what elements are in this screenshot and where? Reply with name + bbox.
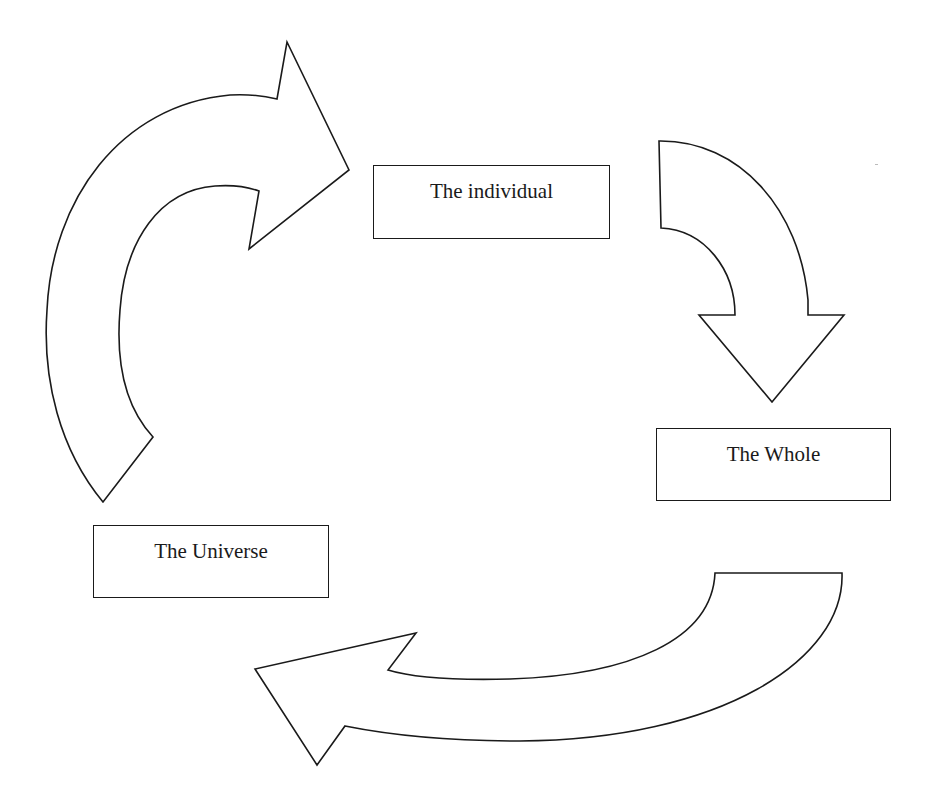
node-whole: The Whole bbox=[656, 428, 891, 501]
node-individual-label: The individual bbox=[374, 166, 609, 204]
arrow-universe-to-individual-icon bbox=[46, 42, 349, 502]
arrow-whole-to-universe-icon bbox=[255, 573, 842, 765]
cycle-diagram: The individual The Whole The Universe bbox=[0, 0, 931, 806]
arrows-layer bbox=[0, 0, 931, 806]
node-universe-label: The Universe bbox=[94, 526, 328, 564]
arrow-individual-to-whole-icon bbox=[659, 141, 844, 402]
scan-artifact bbox=[875, 164, 878, 165]
node-individual: The individual bbox=[373, 165, 610, 239]
node-universe: The Universe bbox=[93, 525, 329, 598]
node-whole-label: The Whole bbox=[657, 429, 890, 467]
